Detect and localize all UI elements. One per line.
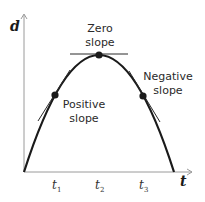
y-axis-label: d bbox=[10, 18, 20, 34]
diagram-svg: d t t 1 t 2 t 3 Zero slope Positive slop… bbox=[0, 0, 205, 202]
svg-text:slope: slope bbox=[85, 36, 114, 49]
x-tick-t1: t 1 bbox=[52, 178, 61, 194]
svg-text:Zero: Zero bbox=[87, 22, 113, 35]
svg-text:Negative: Negative bbox=[143, 70, 193, 83]
svg-text:1: 1 bbox=[57, 186, 61, 194]
negative-slope-point bbox=[139, 92, 146, 99]
zero-slope-point bbox=[95, 51, 102, 58]
svg-text:slope: slope bbox=[153, 84, 182, 97]
svg-text:3: 3 bbox=[144, 186, 148, 194]
x-tick-t2: t 2 bbox=[95, 178, 104, 194]
positive-slope-point bbox=[51, 91, 58, 98]
svg-text:2: 2 bbox=[100, 186, 104, 194]
x-tick-t3: t 3 bbox=[139, 178, 148, 194]
zero-slope-annotation: Zero slope bbox=[85, 22, 114, 49]
slope-diagram: d t t 1 t 2 t 3 Zero slope Positive slop… bbox=[0, 0, 205, 202]
svg-text:Positive: Positive bbox=[63, 98, 106, 111]
negative-slope-annotation: Negative slope bbox=[143, 70, 193, 97]
positive-slope-annotation: Positive slope bbox=[63, 98, 106, 125]
svg-text:slope: slope bbox=[69, 112, 98, 125]
x-axis-label: t bbox=[180, 173, 187, 189]
